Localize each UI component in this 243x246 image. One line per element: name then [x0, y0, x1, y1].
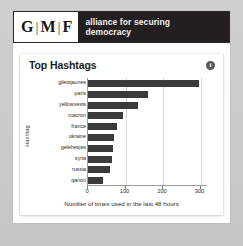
- brand-tagline-line-2: democracy: [85, 27, 229, 38]
- plot-area: [87, 78, 207, 186]
- brand-header: G|M|F alliance for securing democracy: [13, 11, 230, 43]
- bar[interactable]: [88, 91, 148, 98]
- gmf-logo: G|M|F: [14, 12, 78, 42]
- y-axis-tick-label: france: [30, 124, 86, 129]
- x-axis-tick-label: 0: [85, 189, 88, 195]
- y-axis-tick-labels: giletsjaunesparisyellowvestsmacronfrance…: [30, 78, 86, 186]
- top-hashtags-card: Top Hashtags i Hashtag giletsjaunesparis…: [20, 54, 223, 215]
- bar[interactable]: [88, 102, 138, 109]
- bar[interactable]: [88, 80, 199, 87]
- info-icon[interactable]: i: [206, 61, 215, 70]
- logo-letter-m: M: [40, 18, 55, 35]
- y-axis-tick-label: qanon: [30, 178, 86, 183]
- y-axis-tick-label: gelehesjes: [30, 145, 86, 150]
- y-axis-tick-label: syria: [30, 156, 86, 161]
- logo-separator-2: |: [56, 19, 63, 35]
- bar[interactable]: [88, 166, 110, 173]
- y-axis-tick-label: giletsjaunes: [30, 80, 86, 85]
- x-axis-tick-labels: 0100200300: [87, 189, 207, 199]
- brand-tagline: alliance for securing democracy: [78, 12, 229, 42]
- bar[interactable]: [88, 123, 117, 130]
- grid-line: [163, 78, 164, 185]
- page-background: G|M|F alliance for securing democracy To…: [0, 0, 243, 246]
- x-axis-title: Number of times used in the last 48 hour…: [20, 200, 223, 207]
- y-axis-tick-label: yellowvests: [30, 102, 86, 107]
- gmf-logo-letters: G|M|F: [21, 19, 72, 35]
- card-header: Top Hashtags i: [20, 54, 223, 76]
- bar[interactable]: [88, 145, 113, 152]
- card-title: Top Hashtags: [29, 59, 96, 71]
- bar[interactable]: [88, 112, 123, 119]
- bar[interactable]: [88, 134, 114, 141]
- y-axis-tick-label: macron: [30, 113, 86, 118]
- bar-chart: Hashtag giletsjaunesparisyellowvestsmacr…: [20, 78, 223, 215]
- x-axis-tick-label: 300: [195, 189, 205, 195]
- logo-letter-f: F: [63, 18, 73, 35]
- brand-tagline-line-1: alliance for securing: [85, 17, 229, 28]
- bar[interactable]: [88, 156, 112, 163]
- y-axis-tick-label: paris: [30, 91, 86, 96]
- y-axis-tick-label: ukraine: [30, 134, 86, 139]
- bar[interactable]: [88, 177, 103, 184]
- grid-line: [201, 78, 202, 185]
- logo-letter-g: G: [21, 18, 33, 35]
- x-axis-tick-label: 100: [120, 189, 130, 195]
- y-axis-tick-label: russia: [30, 167, 86, 172]
- x-axis-tick-label: 200: [157, 189, 167, 195]
